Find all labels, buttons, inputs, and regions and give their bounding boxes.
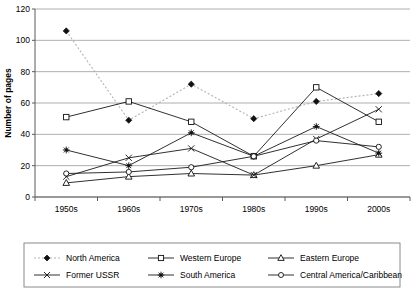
y-tick-label: 120 [16, 4, 30, 14]
legend-label: Former USSR [66, 270, 119, 280]
x-tick-label: 1980s [242, 204, 265, 214]
series-north-america [63, 28, 382, 124]
x-tick-label: 1970s [180, 204, 203, 214]
marker-open-circle [251, 154, 256, 159]
y-tick-label: 40 [21, 129, 31, 139]
marker-filled-diamond [188, 81, 194, 87]
series-line [66, 155, 379, 183]
marker-open-square [376, 119, 381, 124]
x-axis-ticks: 1950s1960s1970s1980s1990s2000s [35, 197, 410, 214]
legend-border [24, 243, 400, 287]
marker-open-circle [126, 169, 131, 174]
y-tick-label: 60 [21, 98, 31, 108]
marker-asterisk [188, 129, 195, 136]
marker-open-square [314, 85, 319, 90]
marker-open-triangle [188, 170, 195, 176]
y-tick-label: 100 [16, 35, 30, 45]
data-series [63, 28, 382, 186]
series-central-america-caribbean [64, 138, 382, 176]
marker-filled-diamond [63, 28, 69, 34]
y-axis-title: Number of pages [3, 68, 13, 138]
legend-item-south-america[interactable]: South America [148, 270, 236, 280]
marker-cross-x [376, 106, 382, 112]
marker-open-circle [376, 144, 381, 149]
series-line [66, 109, 379, 176]
marker-open-square [158, 255, 163, 260]
legend-label: Western Europe [180, 253, 242, 263]
legend-label: North America [66, 253, 120, 263]
series-western-europe [64, 85, 382, 159]
y-tick-label: 0 [25, 192, 30, 202]
legend-label: Eastern Europe [300, 253, 359, 263]
series-line [66, 127, 379, 166]
legend-item-western-europe[interactable]: Western Europe [148, 253, 242, 263]
series-former-ussr [63, 106, 382, 180]
marker-filled-diamond [44, 255, 50, 261]
x-tick-label: 1990s [305, 204, 328, 214]
marker-open-circle [314, 138, 319, 143]
series-line [66, 141, 379, 174]
marker-open-circle [189, 165, 194, 170]
marker-filled-diamond [313, 98, 319, 104]
marker-asterisk [375, 150, 382, 157]
legend-item-eastern-europe[interactable]: Eastern Europe [268, 253, 359, 263]
marker-open-square [189, 119, 194, 124]
marker-asterisk [125, 162, 132, 169]
marker-asterisk [158, 272, 165, 279]
marker-filled-diamond [251, 116, 257, 122]
x-tick-label: 1950s [55, 204, 78, 214]
y-tick-label: 20 [21, 161, 31, 171]
line-chart: 020406080100120 1950s1960s1970s1980s1990… [0, 0, 418, 308]
legend-label: South America [180, 270, 236, 280]
series-line [66, 31, 379, 120]
marker-filled-diamond [376, 91, 382, 97]
marker-open-square [64, 114, 69, 119]
chart-legend: North AmericaWestern EuropeEastern Europ… [24, 243, 402, 287]
legend-label: Central America/Caribbean [300, 270, 402, 280]
legend-item-north-america[interactable]: North America [34, 253, 120, 263]
chart-container: 020406080100120 1950s1960s1970s1980s1990… [0, 0, 418, 308]
y-axis-label: Number of pages [3, 68, 13, 138]
marker-open-circle [64, 171, 69, 176]
marker-asterisk [313, 123, 320, 130]
y-tick-label: 80 [21, 67, 31, 77]
x-tick-label: 1960s [117, 204, 140, 214]
x-tick-label: 2000s [367, 204, 390, 214]
legend-item-central-america-caribbean[interactable]: Central America/Caribbean [268, 270, 402, 280]
y-axis-ticks: 020406080100120 [16, 4, 35, 202]
marker-open-square [126, 99, 131, 104]
series-eastern-europe [63, 151, 382, 185]
marker-open-circle [279, 273, 284, 278]
marker-asterisk [63, 147, 70, 154]
legend-item-former-ussr[interactable]: Former USSR [34, 270, 119, 280]
